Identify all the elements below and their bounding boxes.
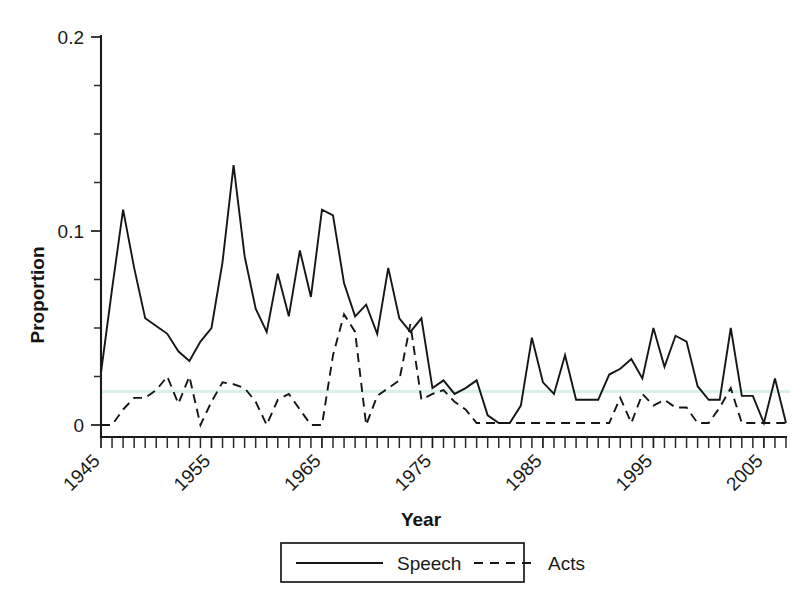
- x-axis-title: Year: [401, 509, 442, 530]
- y-tick-label: 0.1: [58, 221, 84, 242]
- legend-label-speech: Speech: [397, 553, 461, 574]
- chart-figure: 00.10.2 1945195519651975198519952005 Pro…: [0, 0, 810, 612]
- chart-svg: 00.10.2 1945195519651975198519952005 Pro…: [0, 0, 810, 612]
- y-tick-label: 0.2: [58, 27, 84, 48]
- legend-label-acts: Acts: [548, 553, 585, 574]
- y-tick-label: 0: [73, 415, 84, 436]
- y-axis-title: Proportion: [27, 246, 48, 343]
